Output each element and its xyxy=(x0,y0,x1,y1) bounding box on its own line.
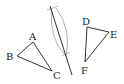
label-b: B xyxy=(6,51,13,62)
label-a: A xyxy=(28,31,37,42)
triangle-def xyxy=(85,27,109,62)
diagram-canvas: A B C D E F xyxy=(0,0,124,84)
label-c: C xyxy=(53,70,61,81)
construction-arcs xyxy=(47,6,70,56)
label-d: D xyxy=(82,16,90,27)
label-e: E xyxy=(110,29,117,40)
label-f: F xyxy=(81,65,88,76)
triangle-abc xyxy=(17,42,52,71)
